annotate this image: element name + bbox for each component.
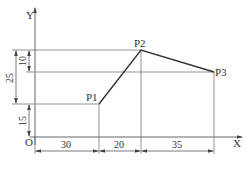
point-label-p3: P3 bbox=[215, 66, 227, 78]
dim-label-15: 15 bbox=[17, 116, 28, 126]
x-axis-label: X bbox=[233, 137, 241, 149]
dim-label-10: 10 bbox=[17, 56, 28, 66]
reference-lines bbox=[12, 50, 214, 154]
profile-path bbox=[99, 50, 214, 104]
origin-label: O bbox=[25, 136, 33, 148]
point-label-p2: P2 bbox=[134, 37, 146, 49]
dim-label-30: 30 bbox=[61, 139, 71, 150]
diagram-canvas: Y X O P1 P2 P3 30 20 35 25 10 15 bbox=[0, 0, 246, 169]
dim-label-25: 25 bbox=[4, 73, 15, 83]
axes bbox=[30, 8, 242, 145]
dim-label-20: 20 bbox=[114, 139, 124, 150]
dim-label-35: 35 bbox=[172, 139, 182, 150]
point-label-p1: P1 bbox=[86, 91, 98, 103]
y-axis-label: Y bbox=[26, 9, 34, 21]
coordinate-diagram: Y X O P1 P2 P3 30 20 35 25 10 15 bbox=[0, 0, 246, 169]
